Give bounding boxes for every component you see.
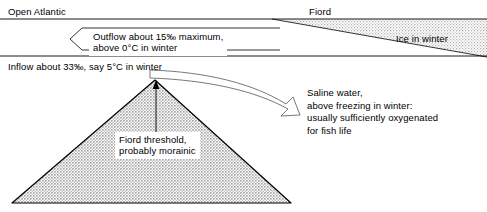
label-inflow: Inflow about 33‰, say 5°C in winter <box>8 61 162 72</box>
label-saline-line4: for fish life <box>307 125 438 138</box>
label-outflow-line1: Outflow about 15‰ maximum, <box>93 31 223 42</box>
label-saline-line1: Saline water, <box>307 87 438 100</box>
fiord-circulation-diagram: Open Atlantic Fiord Ice in winter Outflo… <box>0 0 487 212</box>
label-threshold-line2: probably morainic <box>119 145 196 156</box>
label-saline-line2: above freezing in winter: <box>307 100 438 113</box>
label-fiord: Fiord <box>309 6 331 17</box>
label-outflow-line2: above 0°C in winter <box>93 42 223 53</box>
label-saline-line3: usually sufficiently oxygenated <box>307 112 438 125</box>
label-fiord-threshold: Fiord threshold, probably morainic <box>115 132 200 159</box>
label-ice-in-winter: Ice in winter <box>396 33 448 44</box>
label-outflow: Outflow about 15‰ maximum, above 0°C in … <box>89 29 227 56</box>
label-saline-water: Saline water, above freezing in winter: … <box>307 87 438 137</box>
label-open-atlantic: Open Atlantic <box>8 6 66 17</box>
label-threshold-line1: Fiord threshold, <box>119 134 196 145</box>
